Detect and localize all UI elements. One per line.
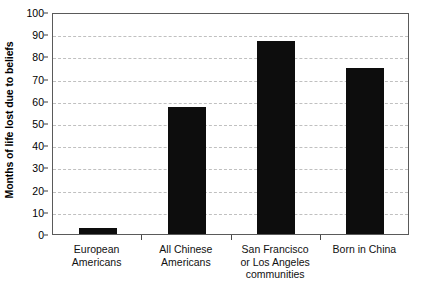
y-axis-tick-mark (44, 35, 48, 36)
x-axis-category-label: All Chinese Americans (141, 243, 230, 268)
y-axis-tick-mark (44, 212, 48, 213)
x-axis-tick-mark (231, 235, 232, 240)
x-axis-tick-mark (320, 235, 321, 240)
gridline (53, 58, 408, 59)
x-axis-category-label: San Francisco or Los Angeles communities (231, 243, 320, 281)
y-axis-tick-mark (44, 79, 48, 80)
bar (168, 107, 206, 234)
y-axis-tick-mark (44, 124, 48, 125)
bar (346, 68, 384, 235)
y-axis-title: Months of life lost due to beliefs (0, 0, 18, 240)
bar (79, 228, 117, 234)
y-axis-tick-label: 60 (32, 96, 44, 108)
x-axis-category-label: European Americans (52, 243, 141, 268)
y-axis-tick-label: 70 (32, 74, 44, 86)
y-axis-tick-label: 100 (26, 7, 44, 19)
y-axis-tick-label: 50 (32, 118, 44, 130)
y-axis-tick-label: 10 (32, 207, 44, 219)
x-axis-category-label: Born in China (320, 243, 409, 256)
y-axis-tick-label: 40 (32, 140, 44, 152)
bar-chart-figure: Months of life lost due to beliefs 01020… (0, 0, 423, 288)
y-axis-title-text: Months of life lost due to beliefs (3, 41, 15, 198)
y-axis-tick-label: 80 (32, 51, 44, 63)
y-axis-tick-mark (44, 57, 48, 58)
y-axis-tick-labels: 0102030405060708090100 (18, 13, 48, 235)
y-axis-tick-label: 30 (32, 162, 44, 174)
y-axis-tick-mark (44, 146, 48, 147)
y-axis-tick-label: 90 (32, 29, 44, 41)
y-axis-tick-mark (44, 190, 48, 191)
bar (257, 41, 295, 234)
gridline (53, 36, 408, 37)
y-axis-tick-label: 20 (32, 185, 44, 197)
y-axis-tick-mark (44, 168, 48, 169)
y-axis-tick-mark (44, 235, 48, 236)
y-axis-tick-mark (44, 13, 48, 14)
x-axis-tick-mark (141, 235, 142, 240)
y-axis-tick-mark (44, 101, 48, 102)
plot-area (52, 13, 409, 235)
